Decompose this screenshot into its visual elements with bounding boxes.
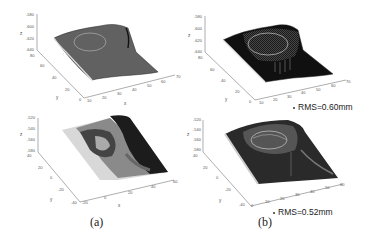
x-tick: 60 [173, 180, 177, 184]
y-axis-label: y [219, 198, 221, 203]
y-tick: 0 [249, 100, 251, 104]
y-tick: 0 [50, 176, 52, 180]
y-tick: 80 [198, 56, 202, 60]
x-tick: 40 [151, 185, 155, 189]
z-tick: -560 [193, 138, 201, 142]
panel-a-top: -580 -600 -620 -640 z 80 60 40 20 0 y 10… [0, 0, 183, 110]
z-tick: -540 [27, 127, 35, 131]
y-axis-label: y [50, 197, 52, 202]
y-tick: 20 [235, 90, 239, 94]
z-tick: -540 [193, 128, 201, 132]
x-tick: 60 [340, 183, 344, 187]
x-tick: 50 [147, 84, 151, 88]
z-tick: -520 [27, 116, 35, 120]
x-tick: 30 [287, 95, 291, 99]
z-axis-label: z [20, 132, 22, 137]
y-tick: 20 [65, 88, 69, 92]
z-tick: -580 [194, 15, 202, 19]
x-axis-label: x [124, 101, 126, 106]
z-tick: -640 [194, 50, 202, 54]
surface-plot-b-bottom [183, 110, 366, 210]
x-tick: 20 [273, 98, 277, 102]
y-tick: -20 [58, 188, 64, 192]
y-tick: 0 [79, 98, 81, 102]
z-tick: -640 [26, 48, 34, 52]
z-tick: -600 [194, 27, 202, 31]
bullet-icon [293, 107, 295, 109]
z-axis-label: z [187, 132, 189, 137]
x-tick: 50 [316, 88, 320, 92]
y-tick: -20 [225, 188, 231, 192]
z-tick: -580 [26, 13, 34, 17]
y-tick: -40 [239, 203, 245, 207]
z-tick: -520 [193, 118, 201, 122]
x-tick: 60 [161, 80, 165, 84]
y-tick: 80 [30, 54, 34, 58]
rms-annotation: RMS=0.52mm [273, 207, 333, 217]
x-tick: 0 [104, 196, 106, 200]
y-tick: 0 [216, 176, 218, 180]
surface-plot-b-top [183, 0, 366, 110]
x-tick: 40 [301, 91, 305, 95]
y-tick: 20 [203, 166, 207, 170]
x-tick: -20 [82, 201, 88, 205]
x-tick: 50 [325, 186, 329, 190]
z-axis-label: z [20, 31, 22, 36]
bullet-icon [273, 212, 275, 214]
x-tick: 20 [280, 197, 284, 201]
z-tick: -620 [26, 37, 34, 41]
panel-b-top: -580 -600 -620 -640 z 80 60 40 20 0 y 10… [183, 0, 366, 110]
z-axis-label: z [188, 33, 190, 38]
x-tick: 30 [295, 193, 299, 197]
caption-a: (a) [90, 215, 103, 230]
x-tick: 10 [259, 101, 263, 105]
y-tick: 60 [210, 68, 214, 72]
z-tick: -600 [26, 25, 34, 29]
y-axis-label: y [56, 95, 58, 100]
z-tick: -580 [193, 148, 201, 152]
panel-a-bottom: -520 -540 -560 -580 z 40 20 0 -20 -40 y … [0, 110, 183, 210]
x-tick: 10 [87, 99, 91, 103]
panel-b-bottom: -520 -540 -560 -580 z 40 20 0 -20 -40 y … [183, 110, 366, 210]
x-tick: 30 [117, 92, 121, 96]
y-tick: 40 [221, 79, 225, 83]
x-tick: 40 [132, 88, 136, 92]
y-tick: 60 [40, 64, 44, 68]
z-tick: -560 [27, 138, 35, 142]
y-tick: 40 [27, 154, 31, 158]
x-tick: 70 [176, 75, 180, 79]
y-tick: 20 [38, 166, 42, 170]
caption-b: (b) [258, 215, 272, 230]
surface-plot-a-bottom [0, 110, 183, 210]
x-tick: 0 [251, 204, 253, 208]
x-tick: 20 [128, 191, 132, 195]
z-tick: -620 [194, 39, 202, 43]
x-tick: 60 [331, 84, 335, 88]
x-tick: 20 [102, 96, 106, 100]
y-tick: 40 [193, 154, 197, 158]
y-tick: 40 [52, 76, 56, 80]
y-axis-label: y [225, 97, 227, 102]
y-tick: -40 [71, 201, 77, 205]
x-axis-label: x [118, 203, 120, 208]
x-tick: 10 [265, 200, 269, 204]
x-tick: 70 [346, 80, 350, 84]
x-tick: 40 [310, 190, 314, 194]
